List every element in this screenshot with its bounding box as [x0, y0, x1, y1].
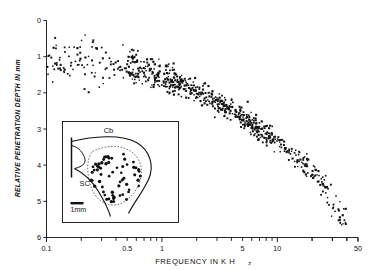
- scatter-point: [217, 110, 219, 112]
- scatter-point: [183, 88, 185, 90]
- inset-recording-site: [133, 173, 136, 176]
- scatter-point: [340, 222, 342, 224]
- scatter-point: [193, 90, 195, 92]
- scatter-point: [169, 69, 171, 71]
- scatter-point: [173, 76, 175, 78]
- scatter-point: [64, 46, 66, 48]
- scatter-point: [136, 59, 138, 61]
- inset-label-cb: Cb: [104, 126, 114, 135]
- scatter-point: [180, 79, 182, 81]
- scatter-point: [152, 61, 154, 63]
- scatter-point: [259, 126, 260, 127]
- scatter-point: [251, 112, 252, 113]
- scatter-point: [173, 69, 175, 71]
- scatter-point: [133, 76, 134, 77]
- scatter-point: [165, 66, 167, 68]
- scatter-point: [110, 61, 112, 63]
- scatter-point: [322, 184, 324, 186]
- scatter-point: [194, 77, 196, 79]
- scatter-point: [277, 136, 279, 138]
- scatter-point: [173, 72, 175, 74]
- scatter-point: [320, 194, 322, 196]
- scatter-point: [131, 49, 133, 51]
- y-axis-label: RELATIVE PENETRATION DEPTH IN mm: [14, 59, 21, 197]
- scatter-point: [306, 176, 307, 177]
- scatter-point: [121, 69, 123, 71]
- scatter-point: [226, 104, 227, 105]
- scatter-point: [247, 101, 249, 103]
- scatter-point: [131, 56, 133, 58]
- scatter-point: [109, 77, 111, 79]
- scatter-point: [60, 64, 62, 66]
- scatter-point: [255, 122, 257, 124]
- scatter-point: [185, 97, 187, 99]
- scatter-point: [250, 134, 252, 136]
- x-axis-label-subscript: z: [248, 260, 251, 266]
- x-tick-label: 50: [354, 244, 362, 253]
- scatter-point: [325, 192, 327, 194]
- scatter-point: [306, 163, 308, 165]
- scatter-point: [195, 90, 197, 92]
- scatter-point: [81, 64, 83, 66]
- scatter-point: [57, 68, 59, 70]
- scatter-point: [119, 69, 121, 71]
- scatter-point: [157, 72, 158, 73]
- scatter-point: [280, 144, 282, 146]
- inset-recording-site: [128, 188, 131, 191]
- scatter-point: [154, 63, 156, 65]
- inset-recording-site: [108, 175, 111, 178]
- scatter-point: [56, 45, 57, 46]
- scatter-point: [254, 133, 255, 134]
- scatter-point: [229, 105, 231, 107]
- scatter-point: [204, 82, 206, 84]
- scatter-point: [297, 166, 298, 167]
- scatter-point: [102, 57, 104, 59]
- scatter-point: [240, 110, 242, 112]
- scatter-point: [129, 51, 130, 52]
- scatter-point: [335, 195, 337, 197]
- scatter-point: [54, 37, 56, 39]
- inset-recording-site: [127, 191, 130, 194]
- inset-recording-site: [125, 198, 128, 201]
- scatter-point: [166, 72, 168, 74]
- scatter-point: [224, 97, 225, 98]
- scatter-point: [204, 92, 206, 94]
- scatter-point: [99, 86, 101, 88]
- scatter-point: [53, 47, 55, 49]
- scatter-point: [143, 72, 145, 74]
- scatter-point: [235, 116, 236, 117]
- scatter-point: [55, 47, 57, 49]
- scatter-point: [91, 46, 93, 48]
- scatter-point: [284, 148, 285, 149]
- scatter-point: [253, 122, 255, 124]
- scatter-point: [163, 82, 165, 84]
- scatter-point: [256, 136, 258, 138]
- scatter-point: [243, 114, 244, 115]
- scatter-point: [287, 150, 288, 151]
- inset-recording-site: [119, 180, 122, 183]
- scatter-point: [257, 126, 258, 127]
- scatter-point: [185, 88, 186, 89]
- inset-recording-site: [136, 179, 139, 182]
- scatter-point: [249, 124, 251, 126]
- scatter-point: [103, 83, 104, 84]
- scatter-point: [46, 66, 48, 68]
- scatter-point: [137, 68, 139, 70]
- scatter-point: [47, 74, 49, 76]
- scatter-point: [132, 78, 133, 79]
- scatter-point: [178, 93, 180, 95]
- scatter-point: [141, 68, 143, 70]
- scatter-point: [144, 68, 146, 70]
- scatter-point: [239, 118, 241, 120]
- scatter-point: [169, 73, 170, 74]
- scatter-point: [243, 127, 245, 129]
- scatter-point: [279, 146, 280, 147]
- scatter-point: [322, 191, 324, 193]
- scatter-point: [64, 51, 66, 53]
- scatter-point: [190, 84, 192, 86]
- scatter-point: [218, 103, 220, 105]
- scatter-point: [246, 123, 248, 125]
- scatter-point: [294, 152, 296, 154]
- x-tick-label: 0.5: [122, 244, 132, 253]
- scatter-point: [306, 158, 308, 160]
